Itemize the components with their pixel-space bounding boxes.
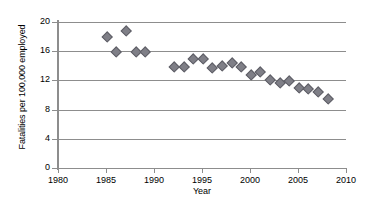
data-point xyxy=(322,93,334,105)
plot-area xyxy=(58,22,346,168)
data-point xyxy=(235,62,247,74)
y-tick-label-wrap: 12 xyxy=(22,74,50,86)
y-tick-label-wrap: 20 xyxy=(22,16,50,28)
y-tick-label-wrap: 8 xyxy=(22,104,50,116)
x-tick-label: 2005 xyxy=(278,175,318,185)
data-point xyxy=(111,46,123,58)
y-tick-label-wrap: 16 xyxy=(22,45,50,57)
y-tick-label: 8 xyxy=(26,104,50,114)
gridline xyxy=(58,80,346,81)
x-tick-label: 1985 xyxy=(86,175,126,185)
data-point xyxy=(178,61,190,73)
data-point xyxy=(120,25,132,37)
scatter-chart: Fatalities per 100,000 employed 04812162… xyxy=(0,0,373,206)
data-point xyxy=(101,32,113,44)
data-point xyxy=(255,66,267,78)
x-tick-mark xyxy=(346,168,347,173)
x-tick-label: 1995 xyxy=(182,175,222,185)
x-axis-title: Year xyxy=(58,186,346,196)
y-tick-label: 16 xyxy=(26,45,50,55)
x-tick-label: 2010 xyxy=(326,175,366,185)
y-tick-label: 0 xyxy=(26,162,50,172)
y-tick-label-wrap: 0 xyxy=(22,162,50,174)
y-tick-label: 4 xyxy=(26,133,50,143)
data-point xyxy=(197,54,209,66)
y-tick-label-wrap: 4 xyxy=(22,133,50,145)
gridline xyxy=(58,139,346,140)
x-tick-label: 1980 xyxy=(38,175,78,185)
gridline xyxy=(58,22,346,23)
x-tick-label: 1990 xyxy=(134,175,174,185)
data-point xyxy=(264,75,276,87)
data-point xyxy=(283,75,295,87)
y-tick-label: 20 xyxy=(26,16,50,26)
gridline xyxy=(58,110,346,111)
x-tick-label: 2000 xyxy=(230,175,270,185)
gridline xyxy=(58,168,346,169)
data-point xyxy=(139,46,151,58)
gridline xyxy=(58,51,346,52)
y-tick-label: 12 xyxy=(26,74,50,84)
